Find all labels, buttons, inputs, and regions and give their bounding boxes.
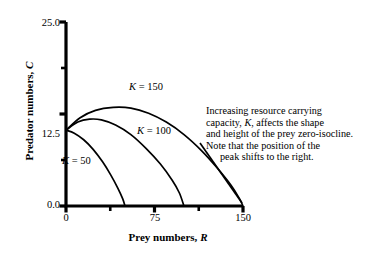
x-axis-title: Prey numbers, R <box>78 231 258 243</box>
annotation-line-4: Note that the position of the <box>206 140 384 152</box>
annotation-line-3: and height of the prey zero-isocline. <box>206 128 384 140</box>
y-axis-title-symbol: C <box>23 62 35 69</box>
annotation-line-2-prefix: capacity, <box>206 117 244 128</box>
curve-label-k50-symbol: K <box>62 155 69 166</box>
y-tick-label-bottom: 0.0 <box>20 199 60 210</box>
curve-label-k50: K = 50 <box>62 155 91 166</box>
annotation-line-2-suffix: , affects the shape <box>251 117 324 128</box>
curve-label-k100-value: = 100 <box>144 125 171 136</box>
y-tick-label-mid: 12.5 <box>20 128 60 139</box>
curve-label-k150-value: = 150 <box>136 81 163 92</box>
annotation-line-5: peak shifts to the right. <box>206 151 384 163</box>
annotation-line-2: capacity, K, affects the shape <box>206 117 384 129</box>
y-axis-title-text: Predator numbers, <box>23 69 35 161</box>
y-tick-label-top: 25.0 <box>20 17 60 28</box>
x-axis-title-symbol: R <box>200 231 207 243</box>
figure-container: Predator numbers, C Prey numbers, R 25.0… <box>0 0 388 263</box>
y-axis-title: Predator numbers, C <box>23 36 35 186</box>
x-tick-label-right: 150 <box>223 212 263 223</box>
curve-label-k150: K = 150 <box>129 81 163 92</box>
isocline-curve-k50 <box>66 130 125 206</box>
curve-label-k100: K = 100 <box>137 125 171 136</box>
annotation-line-1: Increasing resource carrying <box>206 105 384 117</box>
curve-label-k50-value: = 50 <box>69 155 91 166</box>
annotation-text: Increasing resource carrying capacity, K… <box>206 105 384 163</box>
x-tick-label-left: 0 <box>46 212 86 223</box>
x-axis-title-text: Prey numbers, <box>129 231 201 243</box>
curve-label-k100-symbol: K <box>137 125 144 136</box>
x-tick-label-mid: 75 <box>135 212 175 223</box>
curve-label-k150-symbol: K <box>129 81 136 92</box>
